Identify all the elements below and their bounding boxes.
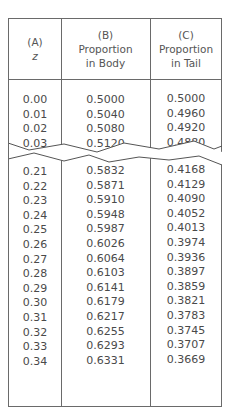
table-cell: 0.23 bbox=[23, 194, 48, 209]
table-cell: 0.26 bbox=[23, 238, 48, 253]
table-cell: 0.29 bbox=[23, 282, 48, 297]
table-cell: 0.5871 bbox=[86, 179, 125, 194]
table-cell: 0.25 bbox=[23, 223, 48, 238]
table-cell: 0.4168 bbox=[167, 163, 206, 178]
table-cell: 0.6141 bbox=[86, 281, 125, 296]
table-cell: 0.4090 bbox=[167, 192, 206, 207]
table-cell: 0.4129 bbox=[167, 178, 206, 193]
table-cell: 0.6103 bbox=[86, 266, 125, 281]
col-body-bottom: 0.58320.58710.59100.59480.59870.60260.60… bbox=[61, 164, 150, 368]
table-cell: 0.3745 bbox=[167, 324, 206, 339]
table-cell: 0.3974 bbox=[167, 236, 206, 251]
table-cell: 0.30 bbox=[23, 296, 48, 311]
table-cell: 0.6255 bbox=[86, 325, 125, 340]
table-cell: 0.6293 bbox=[86, 339, 125, 354]
table-cell: 0.6179 bbox=[86, 295, 125, 310]
table-cell: 0.3859 bbox=[167, 280, 206, 295]
col-tail-bottom: 0.41680.41290.40900.40520.40130.39740.39… bbox=[150, 163, 222, 367]
table-cell: 0.6064 bbox=[86, 252, 125, 267]
table-cell: 0.6026 bbox=[86, 237, 125, 252]
table-cell: 0.33 bbox=[23, 340, 48, 355]
table-cell: 0.34 bbox=[23, 355, 48, 370]
col-z-bottom: 0.210.220.230.240.250.260.270.280.290.30… bbox=[9, 165, 61, 369]
unit-normal-table: (A) z (B) Proportion in Body (C) Proport… bbox=[8, 18, 222, 407]
table-cell: 0.3821 bbox=[167, 294, 206, 309]
table-cell: 0.5832 bbox=[86, 164, 125, 179]
table-cell: 0.5910 bbox=[86, 193, 125, 208]
table-cell: 0.3783 bbox=[167, 309, 206, 324]
table-cell: 0.5987 bbox=[86, 222, 125, 237]
table-cell: 0.31 bbox=[23, 311, 48, 326]
table-cell: 0.3936 bbox=[167, 251, 206, 266]
table-cell: 0.3669 bbox=[167, 353, 206, 368]
table-cell: 0.22 bbox=[23, 180, 48, 195]
table-cell: 0.6217 bbox=[86, 310, 125, 325]
table-cell: 0.6331 bbox=[86, 354, 125, 369]
table-cell: 0.4052 bbox=[167, 207, 206, 222]
table-cell: 0.24 bbox=[23, 209, 48, 224]
table-cell: 0.3707 bbox=[167, 338, 206, 353]
table-cell: 0.28 bbox=[23, 267, 48, 282]
table-cell: 0.21 bbox=[23, 165, 48, 180]
table-cell: 0.4013 bbox=[167, 221, 206, 236]
table-cell: 0.3897 bbox=[167, 265, 206, 280]
table-cell: 0.32 bbox=[23, 326, 48, 341]
table-cell: 0.27 bbox=[23, 253, 48, 268]
table-cell: 0.5948 bbox=[86, 208, 125, 223]
